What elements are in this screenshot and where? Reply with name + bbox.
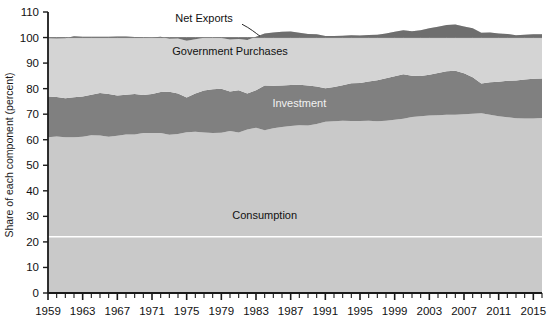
area-bands [48, 25, 542, 293]
x-tick-label: 1995 [347, 305, 373, 317]
chart-figure: 0102030405060708090100110 19591963196719… [0, 0, 547, 321]
y-tick-label: 100 [20, 32, 39, 44]
y-tick-label: 20 [26, 236, 39, 248]
y-tick-label: 40 [26, 185, 39, 197]
x-tick-label: 1979 [209, 305, 235, 317]
y-tick-label: 70 [26, 108, 39, 120]
x-tick-label: 1967 [105, 305, 131, 317]
x-tick-label: 1987 [278, 305, 304, 317]
x-tick-label: 1991 [313, 305, 339, 317]
y-tick-label: 0 [33, 287, 39, 299]
y-tick-label: 80 [26, 83, 39, 95]
area-band-consumption [48, 113, 542, 293]
x-tick-label: 1983 [243, 305, 269, 317]
x-tick-label: 1959 [35, 305, 61, 317]
x-tick-label: 1963 [70, 305, 96, 317]
x-tick-label: 1999 [382, 305, 408, 317]
annotation-investment: Investment [272, 97, 326, 109]
annotation-net-exports: Net Exports [175, 12, 233, 24]
x-tick-label: 2007 [451, 305, 477, 317]
x-tick-label: 1975 [174, 305, 200, 317]
stacked-area-chart: 0102030405060708090100110 19591963196719… [0, 0, 547, 321]
y-tick-label: 10 [26, 261, 39, 273]
x-tick-label: 2003 [417, 305, 443, 317]
y-tick-label: 90 [26, 57, 39, 69]
y-tick-label: 110 [21, 6, 39, 18]
x-tick-label: 2011 [486, 305, 511, 317]
y-tick-label: 30 [26, 210, 39, 222]
y-axis-title: Share of each component (percent) [3, 72, 15, 237]
x-tick-label: 2015 [521, 305, 547, 317]
x-tick-label: 1971 [139, 305, 165, 317]
annotation-consumption: Consumption [232, 209, 297, 221]
y-tick-label: 60 [26, 134, 39, 146]
y-tick-label: 50 [26, 159, 39, 171]
annotation-government-purchases: Government Purchases [172, 45, 288, 57]
